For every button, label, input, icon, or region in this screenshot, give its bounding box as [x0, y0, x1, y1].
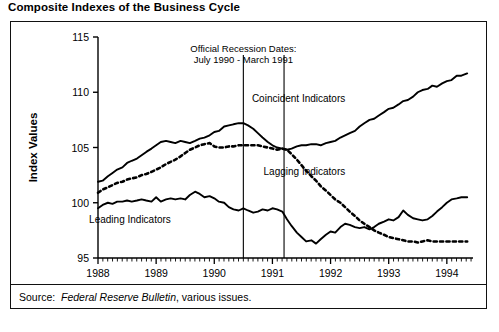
series-label-leading-indicators: Leading Indicators — [89, 214, 171, 225]
x-tick-label: 1990 — [203, 267, 227, 279]
annotation-line-2: July 1990 - March 1991 — [194, 54, 293, 65]
x-tick-label: 1989 — [144, 267, 168, 279]
figure-container: Composite Indexes of the Business Cycle … — [0, 0, 499, 332]
y-tick-label: 100 — [71, 197, 89, 209]
y-tick-label: 110 — [72, 86, 89, 98]
x-tick-label: 1993 — [377, 267, 401, 279]
series-line-lagging-indicators — [98, 143, 467, 242]
y-tick-label: 115 — [72, 31, 89, 43]
source-note: Source: Federal Reserve Bulletin, variou… — [11, 291, 251, 303]
source-publication: Federal Reserve Bulletin — [61, 291, 176, 303]
x-tick-label: 1988 — [86, 267, 110, 279]
page-title: Composite Indexes of the Business Cycle — [8, 1, 240, 13]
source-suffix: , various issues. — [176, 291, 251, 303]
y-axis-title: Index Values — [27, 113, 39, 183]
business-cycle-line-chart: 9510010511011519881989199019911992199319… — [11, 22, 486, 285]
x-tick-label: 1991 — [261, 267, 285, 279]
source-row: Source: Federal Reserve Bulletin, variou… — [11, 284, 486, 308]
figure-frame: 9510010511011519881989199019911992199319… — [10, 21, 487, 309]
series-label-lagging-indicators: Lagging Indicators — [264, 166, 346, 177]
x-tick-label: 1992 — [319, 267, 343, 279]
chart-panel: 9510010511011519881989199019911992199319… — [11, 22, 486, 285]
annotation-line-1: Official Recession Dates: — [190, 43, 296, 54]
y-tick-label: 105 — [71, 142, 89, 154]
source-label: Source: — [19, 291, 55, 303]
series-label-coincident-indicators: Coincident Indicators — [252, 93, 345, 104]
y-tick-label: 95 — [77, 252, 89, 264]
x-tick-label: 1994 — [435, 267, 459, 279]
